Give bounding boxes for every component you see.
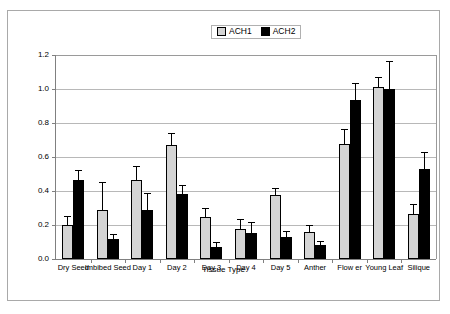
y-tick-label: 0.6 xyxy=(23,152,49,161)
y-tick-label: 1.2 xyxy=(23,50,49,59)
chart-frame: ACH1 ACH2 Relative Expression 0.00.20.40… xyxy=(7,10,440,301)
bar-ach1 xyxy=(304,232,315,259)
error-bar xyxy=(344,130,345,144)
bar-ach1 xyxy=(270,195,281,259)
error-bar-cap xyxy=(213,242,220,243)
bar-ach2 xyxy=(315,245,326,259)
bar-slot xyxy=(315,55,326,259)
error-bar xyxy=(147,194,148,210)
error-bar xyxy=(102,183,103,209)
bar-ach1 xyxy=(373,87,384,259)
plot-right-edge xyxy=(436,55,437,259)
chart-legend: ACH1 ACH2 xyxy=(211,25,301,39)
bar-slot xyxy=(270,55,281,259)
legend-label-ach2: ACH2 xyxy=(273,27,296,36)
legend-label-ach1: ACH1 xyxy=(229,27,252,36)
y-tick-mark xyxy=(52,259,56,260)
bar-ach1 xyxy=(235,229,246,259)
bar-ach2 xyxy=(73,180,84,259)
error-bar-cap xyxy=(352,83,359,84)
bar-ach2 xyxy=(246,233,257,259)
error-bar xyxy=(205,209,206,217)
y-tick-label: 0.8 xyxy=(23,118,49,127)
bar-group xyxy=(367,55,402,259)
error-bar-cap xyxy=(272,188,279,189)
plot-inner: 0.00.20.40.60.81.01.2Dry SeedImbibed See… xyxy=(56,55,436,259)
error-bar-cap xyxy=(64,216,71,217)
bar-slot xyxy=(166,55,177,259)
bar-ach2 xyxy=(177,194,188,259)
bar-slot xyxy=(350,55,361,259)
bar-group xyxy=(332,55,367,259)
bar-slot xyxy=(419,55,430,259)
bar-ach1 xyxy=(166,145,177,259)
error-bar-cap xyxy=(375,77,382,78)
bar-group xyxy=(194,55,229,259)
error-bar xyxy=(424,153,425,169)
bar-slot xyxy=(131,55,142,259)
error-bar-cap xyxy=(341,129,348,130)
bar-group xyxy=(56,55,91,259)
error-bar xyxy=(378,78,379,87)
bar-slot xyxy=(384,55,395,259)
bar-slot xyxy=(246,55,257,259)
error-bar xyxy=(389,62,390,89)
bar-ach1 xyxy=(62,225,73,259)
bar-slot xyxy=(177,55,188,259)
bar-ach1 xyxy=(200,217,211,260)
legend-item-ach2: ACH2 xyxy=(261,27,296,36)
error-bar xyxy=(171,134,172,145)
error-bar xyxy=(78,171,79,180)
legend-item-ach1: ACH1 xyxy=(217,27,252,36)
bar-ach2 xyxy=(281,237,292,259)
error-bar xyxy=(182,186,183,194)
error-bar-cap xyxy=(317,241,324,242)
error-bar xyxy=(320,242,321,245)
error-bar-cap xyxy=(179,185,186,186)
bar-ach2 xyxy=(384,89,395,259)
bar-slot xyxy=(200,55,211,259)
error-bar xyxy=(67,217,68,225)
error-bar-cap xyxy=(421,152,428,153)
error-bar xyxy=(309,226,310,232)
bar-slot xyxy=(62,55,73,259)
bar-ach2 xyxy=(419,169,430,259)
bar-group xyxy=(401,55,436,259)
bar-slot xyxy=(304,55,315,259)
bar-ach2 xyxy=(211,247,222,259)
error-bar-cap xyxy=(248,222,255,223)
y-tick-label: 0.2 xyxy=(23,220,49,229)
bar-group xyxy=(125,55,160,259)
y-tick-label: 0.4 xyxy=(23,186,49,195)
error-bar-cap xyxy=(75,170,82,171)
bar-slot xyxy=(108,55,119,259)
error-bar xyxy=(355,84,356,100)
bar-group xyxy=(229,55,264,259)
error-bar-cap xyxy=(306,225,313,226)
bar-group xyxy=(298,55,333,259)
legend-swatch-icon-ach2 xyxy=(261,27,270,36)
error-bar xyxy=(216,243,217,247)
error-bar xyxy=(413,205,414,214)
error-bar-cap xyxy=(110,234,117,235)
bar-slot xyxy=(235,55,246,259)
bar-slot xyxy=(281,55,292,259)
error-bar-cap xyxy=(410,204,417,205)
error-bar xyxy=(136,167,137,180)
bar-slot xyxy=(408,55,419,259)
bar-ach1 xyxy=(97,210,108,259)
y-tick-label: 0.0 xyxy=(23,254,49,263)
bar-slot xyxy=(142,55,153,259)
error-bar xyxy=(275,189,276,195)
error-bar-cap xyxy=(237,219,244,220)
error-bar-cap xyxy=(144,193,151,194)
error-bar xyxy=(251,223,252,232)
legend-swatch-icon-ach1 xyxy=(217,27,226,36)
bar-ach1 xyxy=(339,144,350,259)
error-bar-cap xyxy=(99,182,106,183)
bar-ach2 xyxy=(350,100,361,259)
plot-area: 0.00.20.40.60.81.01.2Dry SeedImbibed See… xyxy=(55,55,436,260)
error-bar-cap xyxy=(133,166,140,167)
bar-slot xyxy=(97,55,108,259)
bar-ach1 xyxy=(131,180,142,259)
